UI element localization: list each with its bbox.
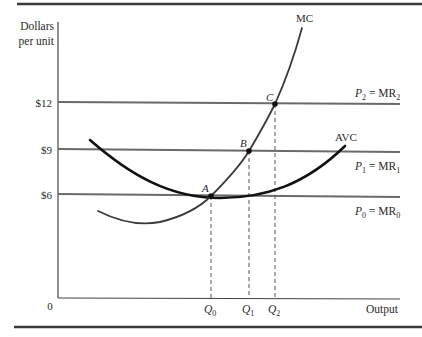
x-tick-q0: Q0 <box>204 303 216 318</box>
y-axis-label-line1: Dollars <box>20 20 54 32</box>
point-a-label: A <box>201 182 209 194</box>
y-tick-6: $6 <box>41 189 53 201</box>
point-b-label: B <box>240 137 247 149</box>
x-tick-q1: Q1 <box>242 303 254 318</box>
price-line-p1 <box>58 149 400 152</box>
x-axis-label: Output <box>366 303 399 316</box>
y-axis-label-line2: per unit <box>19 35 55 48</box>
label-p1-mr1: P1 = MR1 <box>354 160 400 175</box>
label-p0-mr0: P0 = MR0 <box>354 205 400 220</box>
x-tick-q2: Q2 <box>268 303 280 318</box>
chart-svg: Dollars per unit $12 $9 $6 0 A B C MC AV… <box>0 0 422 337</box>
y-tick-9: $9 <box>41 144 53 156</box>
point-a <box>208 193 214 199</box>
label-p2-mr2: P2 = MR2 <box>354 87 400 102</box>
price-line-p2 <box>58 102 400 104</box>
avc-label: AVC <box>335 131 357 143</box>
origin-label: 0 <box>47 300 53 312</box>
mc-label: MC <box>296 12 313 24</box>
point-b <box>246 148 252 154</box>
point-c-label: C <box>266 91 274 103</box>
y-tick-12: $12 <box>36 97 53 109</box>
x-axis <box>58 298 400 299</box>
